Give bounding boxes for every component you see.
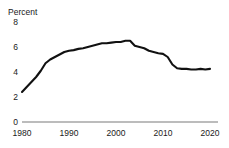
plot-area <box>0 0 229 148</box>
data-series-line <box>22 41 210 92</box>
line-chart: Percent 8 6 4 2 0 1980 1990 2000 2010 20… <box>0 0 229 148</box>
